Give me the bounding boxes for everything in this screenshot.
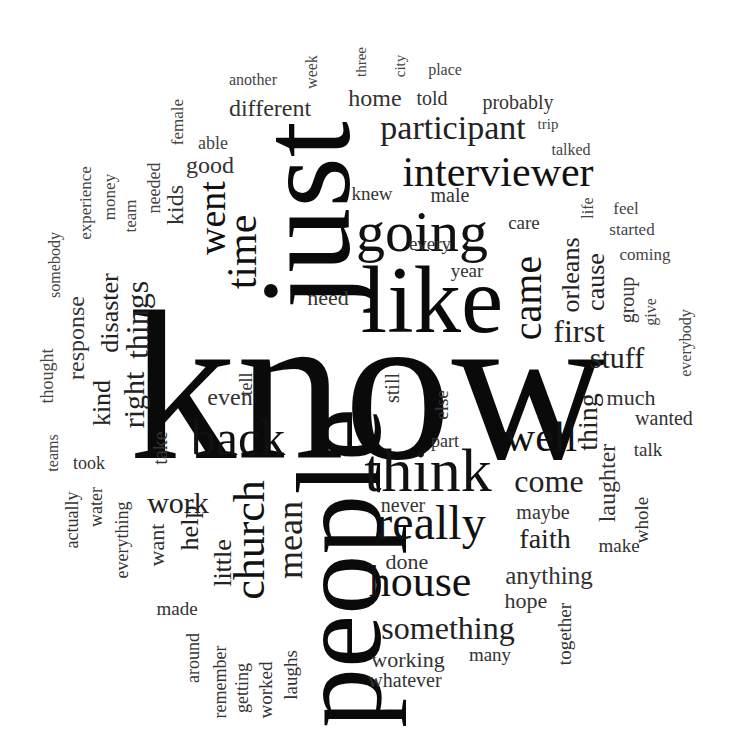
- word-home: home: [348, 86, 401, 110]
- word-laughs: laughs: [281, 650, 300, 700]
- word-need: need: [307, 287, 349, 309]
- word-every: every: [409, 234, 451, 253]
- word-life: life: [580, 197, 596, 218]
- word-care: care: [508, 213, 540, 232]
- word-teams: teams: [45, 434, 61, 471]
- word-want: want: [146, 524, 168, 567]
- word-participant: participant: [380, 111, 525, 145]
- word-remember: remember: [211, 646, 229, 719]
- word-told: told: [416, 88, 447, 108]
- word-able: able: [198, 134, 228, 152]
- word-another: another: [229, 72, 277, 88]
- word-everything: everything: [113, 502, 131, 579]
- word-cloud: knowjustpeoplelikethinkgoinginterviewerb…: [0, 0, 734, 753]
- word-needed: needed: [145, 163, 163, 214]
- word-group: group: [617, 277, 637, 324]
- word-experience: experience: [77, 166, 94, 240]
- word-somebody: somebody: [47, 232, 63, 298]
- word-hope: hope: [505, 590, 548, 612]
- word-talked: talked: [551, 142, 590, 158]
- word-made: made: [156, 599, 197, 618]
- word-around: around: [184, 633, 202, 683]
- word-city: city: [393, 55, 408, 78]
- word-think: think: [364, 439, 491, 501]
- word-cause: cause: [583, 253, 609, 311]
- word-something: something: [381, 612, 514, 644]
- word-never: never: [381, 495, 425, 515]
- word-water: water: [87, 487, 105, 527]
- word-team: team: [122, 199, 139, 232]
- word-coming: coming: [620, 246, 671, 263]
- word-year: year: [451, 261, 484, 280]
- word-disaster: disaster: [97, 273, 123, 352]
- word-many: many: [469, 645, 511, 664]
- word-little: little: [210, 539, 236, 587]
- word-went: went: [193, 181, 231, 255]
- word-money: money: [101, 174, 118, 220]
- word-anything: anything: [505, 563, 593, 588]
- word-started: started: [609, 221, 654, 238]
- word-mean: mean: [272, 501, 308, 579]
- word-still: still: [382, 373, 402, 403]
- word-back: back: [191, 413, 285, 463]
- word-everybody: everybody: [678, 309, 694, 377]
- word-feel: feel: [613, 200, 638, 217]
- word-female: female: [169, 99, 186, 145]
- word-come: come: [514, 465, 583, 497]
- word-stuff: stuff: [590, 343, 644, 373]
- word-together: together: [555, 603, 574, 665]
- word-worked: worked: [256, 662, 275, 719]
- word-working: working: [371, 649, 444, 671]
- word-good: good: [186, 153, 234, 177]
- word-place: place: [428, 62, 462, 78]
- word-came: came: [508, 256, 548, 340]
- word-whole: whole: [632, 497, 651, 543]
- word-different: different: [229, 96, 311, 120]
- word-tell: tell: [237, 373, 255, 396]
- word-getting: getting: [233, 663, 251, 713]
- word-talk: talk: [634, 440, 663, 459]
- word-much: much: [607, 387, 656, 409]
- word-give: give: [643, 298, 659, 326]
- word-probably: probably: [482, 92, 553, 112]
- word-faith: faith: [519, 525, 570, 553]
- word-kids: kids: [163, 185, 187, 225]
- word-knew: knew: [351, 184, 392, 203]
- word-took: took: [73, 454, 105, 472]
- word-done: done: [386, 551, 429, 573]
- word-well: well: [505, 416, 577, 458]
- word-right: right: [119, 372, 149, 429]
- word-trip: trip: [538, 117, 559, 132]
- word-thing: thing: [574, 393, 602, 451]
- word-three: three: [354, 47, 369, 77]
- word-laughter: laughter: [595, 444, 619, 523]
- word-things: things: [121, 281, 153, 359]
- word-take: take: [150, 431, 170, 464]
- word-male: male: [431, 185, 470, 205]
- word-part: part: [431, 432, 459, 450]
- word-help: help: [177, 506, 203, 551]
- word-response: response: [64, 296, 88, 380]
- word-else: else: [432, 390, 451, 420]
- word-week: week: [304, 55, 320, 89]
- word-actually: actually: [63, 492, 81, 549]
- word-wanted: wanted: [635, 408, 693, 428]
- word-kind: kind: [89, 380, 115, 426]
- word-maybe: maybe: [516, 502, 569, 522]
- word-whatever: whatever: [368, 670, 441, 690]
- word-thought: thought: [38, 348, 56, 403]
